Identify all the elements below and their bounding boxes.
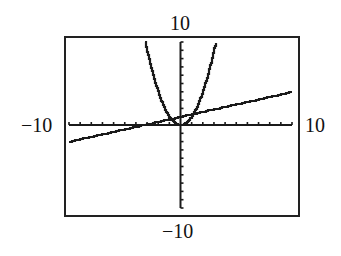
xmax-label: 10	[305, 115, 325, 135]
ymin-label: −10	[162, 221, 193, 241]
xmin-label: −10	[21, 115, 52, 135]
ymax-label: 10	[170, 13, 190, 33]
